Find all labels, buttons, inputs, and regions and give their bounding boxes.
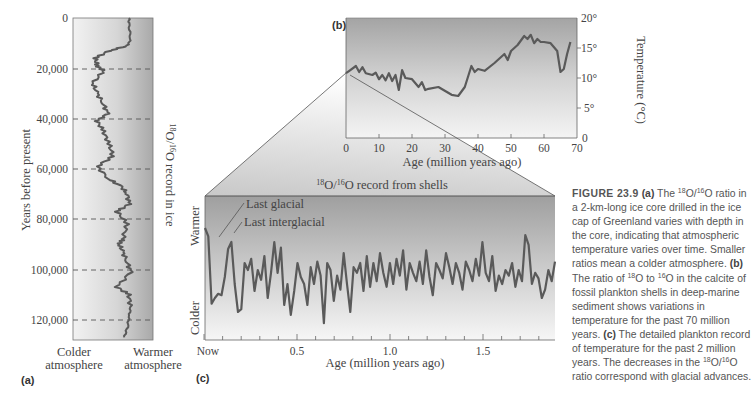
svg-text:Colder: Colder: [57, 345, 92, 359]
panel-b-temperature-chart: 0 10 20 30 40 50 60 70 0 5° 10° 15° 20° …: [332, 12, 648, 169]
panel-a-ice-core-chart: 0 20,000 40,000 60,000 80,000 100,000 12…: [19, 12, 182, 386]
svg-text:15°: 15°: [581, 42, 598, 54]
svg-text:atmosphere: atmosphere: [45, 358, 103, 372]
panel-c-warmer-label: Warmer: [188, 205, 202, 246]
panel-c-colder-label: Colder: [188, 300, 202, 335]
panel-b-y-ticks: 0 5° 10° 15° 20°: [581, 12, 598, 144]
panel-b-label: (b): [332, 19, 346, 31]
svg-text:0: 0: [582, 132, 588, 144]
last-interglacial-annotation: Last interglacial: [244, 215, 325, 229]
panel-a-y-axis-title: Years before present: [19, 128, 33, 231]
panel-c-title: 18O/16O record from shells: [316, 178, 448, 192]
svg-text:0: 0: [62, 12, 68, 24]
figure-number: FIGURE 23.9: [572, 188, 639, 199]
panel-a-label: (a): [21, 374, 35, 386]
panel-c-shell-record-chart: 18O/16O record from shells Now 0.5 1.0 1…: [188, 178, 555, 384]
svg-text:60,000: 60,000: [36, 163, 68, 176]
figure-caption: FIGURE 23.9 (a) The 18O/16O ratio in a 2…: [572, 187, 752, 384]
panel-a-side-title: 18O/16O record in ice: [163, 123, 177, 227]
panel-c-x-axis-title: Age (million years ago): [325, 356, 444, 370]
svg-text:60: 60: [538, 142, 550, 154]
svg-text:1.5: 1.5: [476, 345, 491, 357]
svg-text:20: 20: [406, 142, 418, 154]
svg-text:120,000: 120,000: [31, 314, 69, 327]
svg-text:Now: Now: [197, 345, 220, 357]
svg-text:atmosphere: atmosphere: [124, 358, 182, 372]
svg-text:20,000: 20,000: [36, 63, 68, 76]
panel-a-x-labels: Colder atmosphere Warmer atmosphere: [45, 345, 182, 372]
svg-text:50: 50: [505, 142, 517, 154]
svg-text:80,000: 80,000: [36, 213, 68, 226]
svg-text:30: 30: [439, 142, 451, 154]
svg-text:100,000: 100,000: [31, 264, 69, 277]
panel-a-plot-frame: [73, 18, 153, 340]
svg-text:Warmer: Warmer: [133, 345, 174, 359]
panel-b-x-axis-title: Age (million years ago): [402, 155, 521, 169]
svg-text:0: 0: [343, 142, 349, 154]
panel-c-label: (c): [196, 372, 210, 384]
svg-text:20°: 20°: [581, 12, 598, 24]
panel-b-y-axis-title: Temperature (°C): [634, 36, 648, 124]
svg-text:40,000: 40,000: [36, 113, 68, 126]
svg-text:10°: 10°: [581, 72, 598, 84]
svg-text:5°: 5°: [584, 102, 595, 114]
last-glacial-annotation: Last glacial: [246, 197, 304, 211]
svg-text:10: 10: [373, 142, 385, 154]
svg-text:0.5: 0.5: [290, 345, 305, 357]
panel-a-y-ticks: 0 20,000 40,000 60,000 80,000 100,000 12…: [31, 12, 69, 327]
